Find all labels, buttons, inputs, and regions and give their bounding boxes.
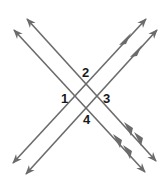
- angle-label-3: 3: [103, 91, 110, 106]
- parallel-lines-diagram: 2 1 3 4: [0, 0, 168, 179]
- angle-label-2: 2: [82, 65, 89, 80]
- parallel-mark-icon: [119, 33, 131, 45]
- line-swne-2: [26, 30, 157, 174]
- parallel-mark-icon: [130, 45, 142, 57]
- line-swne-1: [13, 19, 146, 163]
- angle-label-1: 1: [61, 91, 68, 106]
- angle-label-4: 4: [83, 112, 91, 127]
- line-nwse-2: [27, 19, 156, 161]
- line-nwse-1: [14, 30, 145, 172]
- parallel-mark-icon: [124, 122, 143, 146]
